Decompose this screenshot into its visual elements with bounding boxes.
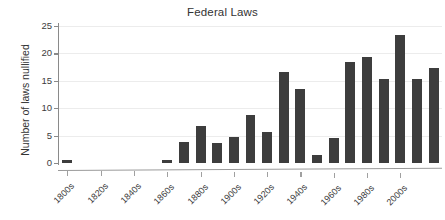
x-tick-mark bbox=[167, 172, 168, 177]
x-tick-mark bbox=[101, 171, 102, 176]
chart-figure: Federal Laws Number of laws nullified 05… bbox=[0, 0, 445, 220]
y-tick-label: 5 bbox=[26, 131, 52, 141]
bar bbox=[362, 57, 372, 163]
y-tick-label: 15 bbox=[26, 76, 52, 86]
x-tick-mark bbox=[267, 172, 268, 177]
y-tick-label: 25 bbox=[26, 21, 52, 31]
bar bbox=[179, 142, 189, 163]
bar bbox=[345, 62, 355, 163]
y-tick-mark bbox=[54, 136, 59, 137]
bar bbox=[196, 126, 206, 163]
bar bbox=[429, 68, 439, 163]
bar-series bbox=[59, 26, 442, 163]
x-tick-mark bbox=[201, 172, 202, 177]
bar bbox=[246, 115, 256, 163]
y-tick-mark bbox=[54, 81, 59, 82]
x-tick-mark bbox=[234, 172, 235, 177]
bar bbox=[379, 79, 389, 163]
bar bbox=[162, 160, 172, 163]
bar bbox=[262, 132, 272, 163]
bar bbox=[62, 160, 72, 163]
bar bbox=[312, 155, 322, 163]
y-tick-label: 0 bbox=[26, 158, 52, 168]
x-tick-mark bbox=[134, 171, 135, 176]
x-tick-mark bbox=[67, 171, 68, 176]
y-tick-label: 10 bbox=[26, 103, 52, 113]
y-tick-mark bbox=[54, 108, 59, 109]
y-axis-line bbox=[58, 23, 59, 165]
plot-area bbox=[59, 26, 442, 163]
bar bbox=[212, 143, 222, 163]
bar bbox=[329, 138, 339, 163]
y-tick-mark bbox=[54, 163, 59, 164]
x-tick-mark bbox=[300, 172, 301, 177]
bar bbox=[279, 72, 289, 163]
y-tick-label: 20 bbox=[26, 48, 52, 58]
bar bbox=[412, 79, 422, 163]
y-tick-mark bbox=[54, 26, 59, 27]
x-tick-mark bbox=[400, 173, 401, 178]
x-tick-mark bbox=[367, 173, 368, 178]
x-tick-mark bbox=[334, 173, 335, 178]
bar bbox=[229, 137, 239, 163]
bar bbox=[295, 89, 305, 163]
y-tick-mark bbox=[54, 53, 59, 54]
bar bbox=[395, 35, 405, 163]
x-axis-line bbox=[58, 168, 442, 172]
chart-title: Federal Laws bbox=[0, 6, 445, 18]
